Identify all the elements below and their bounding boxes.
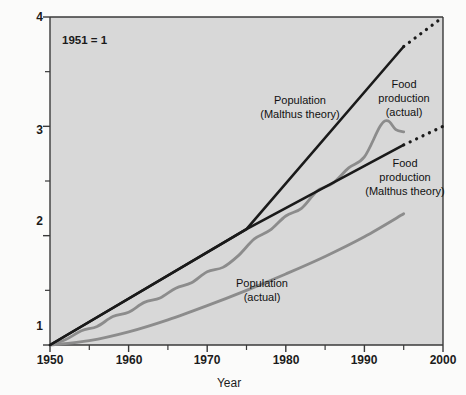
label-population-actual-line2: (actual) — [244, 291, 281, 303]
y-tick-label-4: 4 — [36, 10, 43, 24]
baseline-note: 1951 = 1 — [62, 34, 108, 46]
x-tick-label-1970: 1970 — [194, 353, 221, 367]
x-tick-label-1950: 1950 — [37, 353, 64, 367]
label-food-malthus-line1: Food — [392, 157, 417, 169]
y-tick-label-3: 3 — [36, 123, 43, 137]
x-axis-title: Year — [217, 376, 241, 390]
chart-container: 4 3 2 1 1950 1960 1970 1980 1990 2000 Ye… — [0, 0, 466, 395]
label-food-actual-line3: (actual) — [386, 106, 423, 118]
y-tick-label-1: 1 — [36, 319, 43, 333]
malthus-chart-figure: 4 3 2 1 1950 1960 1970 1980 1990 2000 Ye… — [0, 0, 466, 395]
label-population-malthus-line1: Population — [274, 94, 326, 106]
y-axis-ticks — [43, 17, 50, 345]
y-tick-label-2: 2 — [36, 214, 43, 228]
label-food-malthus-line3: (Malthus theory) — [365, 185, 444, 197]
x-tick-label-1980: 1980 — [273, 353, 300, 367]
label-population-malthus-line2: (Malthus theory) — [260, 108, 339, 120]
label-population-actual-line1: Population — [236, 277, 288, 289]
label-food-actual-line1: Food — [391, 78, 416, 90]
label-food-malthus-line2: production — [379, 171, 430, 183]
x-axis-ticks — [50, 345, 443, 352]
x-tick-label-2000: 2000 — [430, 353, 457, 367]
label-food-actual-line2: production — [378, 92, 429, 104]
x-tick-label-1990: 1990 — [351, 353, 378, 367]
x-tick-label-1960: 1960 — [116, 353, 143, 367]
